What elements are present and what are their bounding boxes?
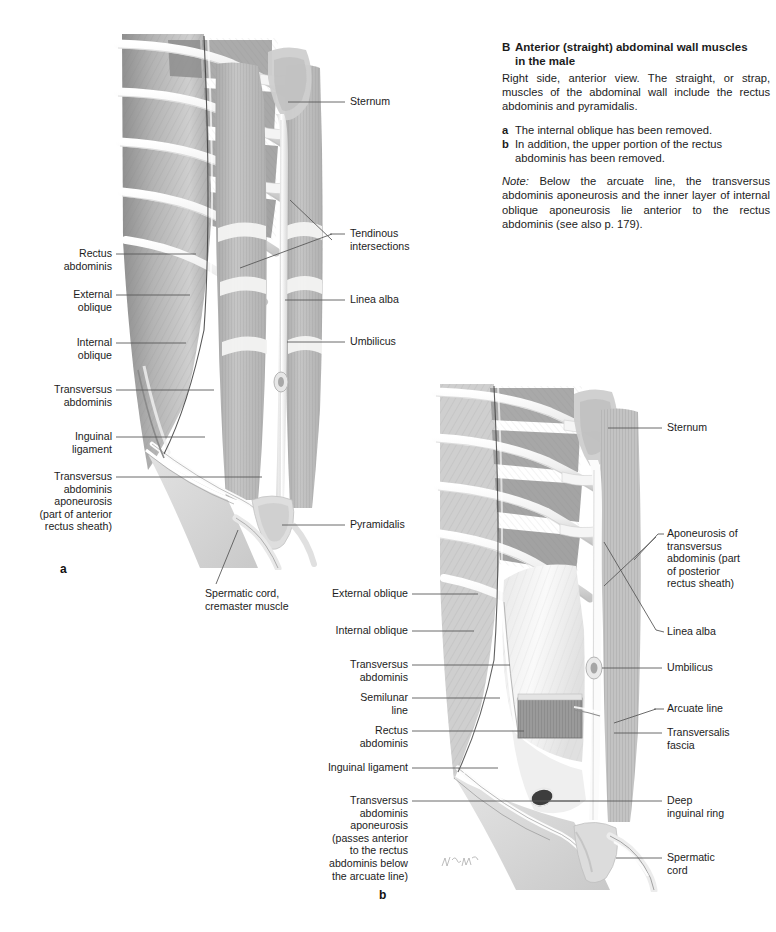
caption-intro: Right side, anterior view. The straight,… <box>502 71 770 114</box>
label-b-transversus-aponeurosis: Transversus abdominis aponeurosis (passe… <box>280 794 408 882</box>
caption-item-b-text: In addition, the upper portion of the re… <box>515 137 770 165</box>
label-a-linea-alba: Linea alba <box>350 293 470 306</box>
caption-heading: BAnterior (straight) abdominal wall musc… <box>502 40 770 68</box>
label-b-internal-oblique: Internal oblique <box>288 624 408 637</box>
caption-item-a: a The internal oblique has been removed. <box>502 123 770 137</box>
label-b-transversus-abdominis: Transversus abdominis <box>288 658 408 683</box>
figure-a-svg <box>108 30 330 570</box>
label-a-transversus-aponeurosis: Transversus abdominis aponeurosis (part … <box>2 470 112 533</box>
caption-note: Note: Below the arcuate line, the transv… <box>502 174 770 231</box>
caption-block: BAnterior (straight) abdominal wall musc… <box>502 40 770 231</box>
label-a-external-oblique: External oblique <box>16 288 112 313</box>
caption-note-text: Below the arcuate line, the transversus … <box>502 175 770 230</box>
label-a-rectus-abdominis: Rectus abdominis <box>16 247 112 272</box>
figure-a-letter: a <box>60 562 67 576</box>
label-b-transversalis-fascia: Transversalis fascia <box>667 726 776 751</box>
label-b-sternum: Sternum <box>667 421 776 434</box>
caption-item-a-key: a <box>502 123 515 137</box>
label-b-external-oblique: External oblique <box>288 587 408 600</box>
illustration-page: Rectus abdominis External oblique Intern… <box>0 0 776 932</box>
label-b-aponeurosis-transversus: Aponeurosis of transversus abdominis (pa… <box>667 527 771 590</box>
label-b-arcuate-line: Arcuate line <box>667 702 776 715</box>
label-a-umbilicus: Umbilicus <box>350 335 470 348</box>
label-a-tendinous-intersections: Tendinous intersections <box>350 227 470 252</box>
label-a-internal-oblique: Internal oblique <box>16 336 112 361</box>
figure-b-svg <box>424 380 668 892</box>
figure-a-illustration <box>108 30 330 570</box>
label-a-pyramidalis: Pyramidalis <box>350 518 470 531</box>
label-b-deep-inguinal-ring: Deep inguinal ring <box>667 794 776 819</box>
caption-figure-id: B <box>502 40 515 54</box>
caption-item-b-key: b <box>502 137 515 165</box>
figure-b-letter: b <box>379 888 386 902</box>
caption-title: Anterior (straight) abdominal wall muscl… <box>515 40 753 68</box>
label-b-semilunar-line: Semilunar line <box>288 691 408 716</box>
caption-item-list: a The internal oblique has been removed.… <box>502 123 770 166</box>
label-b-linea-alba: Linea alba <box>667 625 776 638</box>
caption-item-b: b In addition, the upper portion of the … <box>502 137 770 165</box>
label-b-umbilicus: Umbilicus <box>667 661 776 674</box>
figure-b-illustration <box>424 380 668 892</box>
label-a-transversus-abdominis: Transversus abdominis <box>8 383 112 408</box>
label-b-inguinal-ligament: Inguinal ligament <box>288 761 408 774</box>
label-b-rectus-abdominis: Rectus abdominis <box>288 724 408 749</box>
label-b-spermatic-cord: Spermatic cord <box>667 851 776 876</box>
label-a-inguinal-ligament: Inguinal ligament <box>16 430 112 455</box>
label-a-sternum: Sternum <box>350 95 470 108</box>
caption-item-a-text: The internal oblique has been removed. <box>515 123 770 137</box>
caption-note-prefix: Note: <box>502 175 529 187</box>
